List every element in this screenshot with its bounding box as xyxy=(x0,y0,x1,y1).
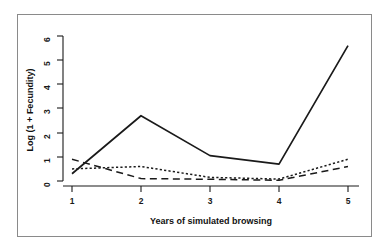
y-tick-label-2: 2 xyxy=(42,134,52,139)
figure-root: 0 1 2 3 4 5 6 1 2 3 4 5 Years of simulat… xyxy=(0,0,391,249)
line-chart: 0 1 2 3 4 5 6 1 2 3 4 5 Years of simulat… xyxy=(0,0,391,249)
y-tick-label-1: 1 xyxy=(42,158,52,163)
x-axis-ticks xyxy=(72,186,348,192)
x-axis-title: Years of simulated browsing xyxy=(150,216,272,226)
x-tick-label-3: 3 xyxy=(208,196,213,206)
y-tick-label-5: 5 xyxy=(42,61,52,66)
x-tick-label-2: 2 xyxy=(139,196,144,206)
x-tick-label-1: 1 xyxy=(70,196,75,206)
series-line-dashed xyxy=(72,159,348,180)
y-tick-label-4: 4 xyxy=(42,85,52,90)
x-axis-tick-labels: 1 2 3 4 5 xyxy=(70,196,351,206)
y-axis-tick-labels: 0 1 2 3 4 5 6 xyxy=(42,37,52,187)
y-axis-ticks xyxy=(57,36,63,181)
series-line-dotted xyxy=(72,159,348,179)
y-tick-label-3: 3 xyxy=(42,109,52,114)
x-tick-label-5: 5 xyxy=(346,196,351,206)
y-tick-label-0: 0 xyxy=(42,182,52,187)
y-axis-title: Log (1 + Fecundity) xyxy=(25,69,35,152)
series-line-solid xyxy=(72,46,348,174)
x-tick-label-4: 4 xyxy=(277,196,282,206)
y-tick-label-6: 6 xyxy=(42,37,52,42)
